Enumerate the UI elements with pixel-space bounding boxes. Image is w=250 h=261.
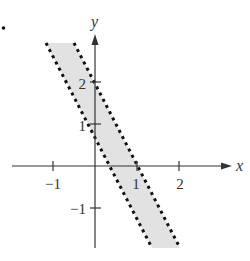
y-tick-label: −1 <box>70 201 86 217</box>
x-axis-label: x <box>235 157 243 174</box>
x-axis-arrow-icon <box>221 163 232 170</box>
y-axis-arrow-icon <box>92 34 99 45</box>
x-tick-label: 1 <box>132 176 140 192</box>
y-tick-label: 2 <box>79 76 87 92</box>
shaded-region <box>46 43 180 248</box>
y-tick-label: 1 <box>79 118 87 134</box>
bullet-marker-icon <box>2 26 6 30</box>
inequality-graph: −1 1 2 2 1 −1 x y <box>0 0 250 261</box>
x-tick-label: −1 <box>45 176 61 192</box>
x-tick-label: 2 <box>176 176 184 192</box>
y-axis-label: y <box>89 13 99 31</box>
